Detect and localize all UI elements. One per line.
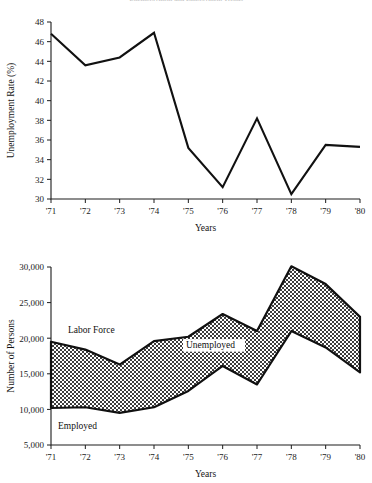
unemployment-rate-line [51,33,360,194]
y-tick-label: 30 [35,194,45,204]
figure-title: Unemployment and Employment Trends [0,0,372,1]
y-tick-label: 15,000 [19,369,44,379]
labor-force-plot: 5,00010,00015,00020,00025,00030,000'71'7… [0,245,372,483]
employed-label: Employed [58,421,97,431]
labor-force-label: Labor Force [68,325,115,335]
y-axis-title: Unemployment Rate (%) [6,63,17,159]
y-tick-label: 40 [35,96,45,106]
x-tick-label: '80 [355,452,366,462]
y-tick-label: 10,000 [19,405,44,415]
unemployed-label: Unemployed [186,340,235,350]
y-tick-label: 34 [35,155,45,165]
y-tick-label: 32 [35,175,44,185]
y-tick-label: 25,000 [19,298,44,308]
x-tick-label: '76 [217,452,228,462]
y-tick-label: 5,000 [24,440,45,450]
y-tick-label: 44 [35,57,45,67]
x-tick-label: '78 [286,206,297,216]
x-tick-label: '80 [355,206,366,216]
x-tick-label: '77 [252,452,263,462]
y-tick-label: 46 [35,37,45,47]
y-axis-title: Number of Persons [6,319,16,393]
y-tick-label: 30,000 [19,262,44,272]
x-tick-label: '72 [80,452,91,462]
x-tick-label: '76 [217,206,228,216]
x-tick-label: '73 [114,452,125,462]
y-tick-label: 38 [35,116,45,126]
y-tick-label: 48 [35,17,45,27]
x-tick-label: '75 [183,452,194,462]
x-tick-label: '75 [183,206,194,216]
x-tick-label: '71 [46,206,57,216]
y-tick-label: 42 [35,76,44,86]
x-tick-label: '71 [46,452,57,462]
x-tick-label: '77 [252,206,263,216]
x-tick-label: '79 [320,206,331,216]
y-tick-label: 36 [35,135,45,145]
x-tick-label: '74 [149,206,160,216]
axes [51,22,360,199]
y-tick-label: 20,000 [19,334,44,344]
labor-force-chart: 5,00010,00015,00020,00025,00030,000'71'7… [0,245,372,483]
unemployment-rate-plot: 30323436384042444648'71'72'73'74'75'76'7… [0,0,372,240]
unemployment-rate-chart: Unemployment and Employment Trends 30323… [0,0,372,240]
x-tick-label: '73 [114,206,125,216]
x-tick-label: '74 [149,452,160,462]
x-axis-title: Years [195,223,217,233]
x-tick-label: '79 [320,452,331,462]
x-tick-label: '78 [286,452,297,462]
x-axis-title: Years [195,469,217,479]
x-tick-label: '72 [80,206,91,216]
